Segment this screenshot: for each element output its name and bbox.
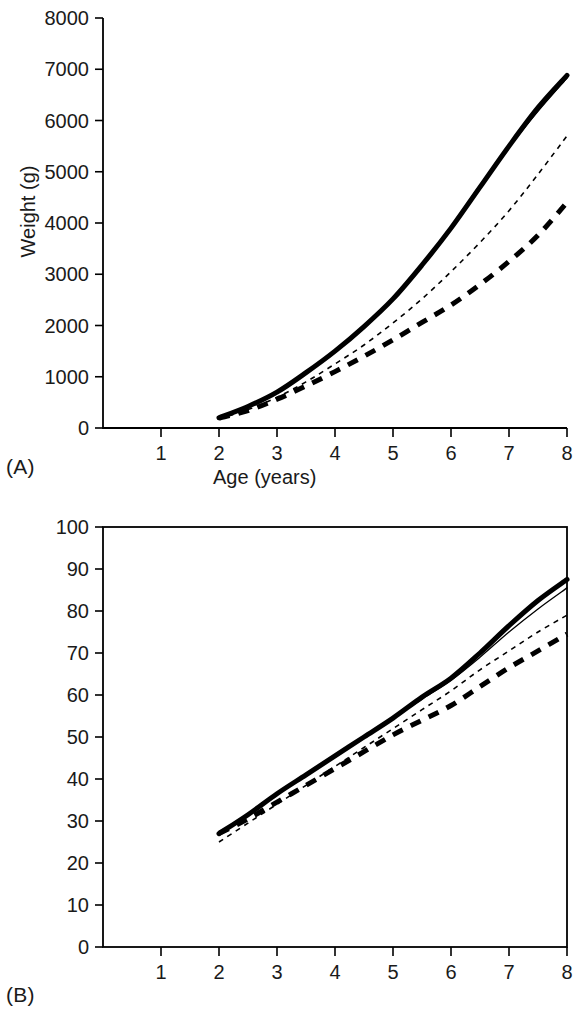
panel-b-ytick-label: 80 bbox=[67, 600, 89, 623]
panel-b-ytick-label: 30 bbox=[67, 810, 89, 833]
panel-a-y-axis-title: Weight (g) bbox=[17, 152, 40, 272]
panel-b-series-fine-dashed bbox=[219, 615, 567, 842]
panel-a-weight-chart: (A) Age (years) Weight (g) 0100020003000… bbox=[0, 0, 582, 505]
panel-b-ytick-label: 100 bbox=[56, 516, 89, 539]
panel-a-xtick-label: 6 bbox=[445, 442, 456, 465]
growth-chart-figure: (A) Age (years) Weight (g) 0100020003000… bbox=[0, 0, 582, 1018]
panel-a-xtick-label: 4 bbox=[329, 442, 340, 465]
panel-a-ytick-label: 5000 bbox=[45, 160, 90, 183]
panel-b-xtick-label: 4 bbox=[329, 961, 340, 984]
panel-b-series-thick-dashed bbox=[219, 634, 567, 834]
panel-b-ytick-label: 20 bbox=[67, 852, 89, 875]
panel-b-ytick-label: 70 bbox=[67, 642, 89, 665]
panel-b-ytick-label: 10 bbox=[67, 894, 89, 917]
panel-a-xtick-label: 5 bbox=[387, 442, 398, 465]
panel-a-ytick-label: 1000 bbox=[45, 365, 90, 388]
panel-b-ytick-label: 0 bbox=[78, 936, 89, 959]
panel-a-ytick-label: 2000 bbox=[45, 314, 90, 337]
panel-b-ytick-label: 40 bbox=[67, 768, 89, 791]
panel-a-ytick-label: 3000 bbox=[45, 263, 90, 286]
panel-a-label: (A) bbox=[6, 455, 35, 479]
panel-b-xtick-label: 5 bbox=[387, 961, 398, 984]
panel-b-xtick-label: 8 bbox=[561, 961, 572, 984]
panel-a-series-thin-solid bbox=[219, 78, 567, 418]
panel-a-ytick-label: 4000 bbox=[45, 212, 90, 235]
panel-a-series-fine-dashed bbox=[219, 136, 567, 419]
panel-b-xtick-label: 3 bbox=[271, 961, 282, 984]
panel-a-ytick-label: 8000 bbox=[45, 7, 90, 30]
panel-b-ytick-label: 50 bbox=[67, 726, 89, 749]
panel-a-xtick-label: 2 bbox=[213, 442, 224, 465]
panel-a-xtick-label: 7 bbox=[503, 442, 514, 465]
panel-a-ytick-label: 6000 bbox=[45, 109, 90, 132]
panel-a-series-thick-solid bbox=[219, 75, 567, 417]
panel-a-ytick-label: 0 bbox=[78, 417, 89, 440]
panel-b-series-thick-solid bbox=[219, 580, 567, 834]
panel-a-series-thick-dashed bbox=[219, 203, 567, 419]
panel-b-xtick-label: 6 bbox=[445, 961, 456, 984]
panel-b-label: (B) bbox=[6, 983, 35, 1007]
panel-b-length-chart: (B) Age (years) Length (cm) 010203040506… bbox=[0, 505, 582, 1018]
panel-a-x-axis-title: Age (years) bbox=[213, 466, 316, 489]
panel-a-xtick-label: 8 bbox=[561, 442, 572, 465]
panel-b-ytick-label: 60 bbox=[67, 684, 89, 707]
panel-a-ytick-label: 7000 bbox=[45, 58, 90, 81]
panel-b-ytick-label: 90 bbox=[67, 558, 89, 581]
panel-b-xtick-label: 1 bbox=[155, 961, 166, 984]
panel-a-xtick-label: 3 bbox=[271, 442, 282, 465]
panel-a-xtick-label: 1 bbox=[155, 442, 166, 465]
panel-b-xtick-label: 2 bbox=[213, 961, 224, 984]
panel-b-xtick-label: 7 bbox=[503, 961, 514, 984]
